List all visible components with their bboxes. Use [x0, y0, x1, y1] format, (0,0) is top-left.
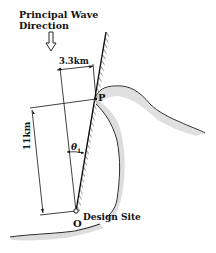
angle-subscript: 1 — [77, 147, 81, 154]
headland-shoreline — [94, 86, 205, 220]
point-o-marker — [74, 209, 78, 213]
title-line-1: Principal Wave — [19, 9, 98, 20]
point-o-label: O — [73, 218, 82, 229]
dimension-11km-label: 11km — [22, 122, 32, 150]
point-p-marker — [95, 98, 97, 100]
design-site-label: Design Site — [83, 212, 141, 222]
wave-direction-title: Principal Wave Direction — [19, 9, 98, 31]
southern-shoreline — [10, 224, 104, 240]
wave-direction-arrow-icon — [46, 32, 56, 51]
fetch-geometry-lines — [30, 64, 96, 215]
angle-theta-label: θ1 — [71, 142, 81, 154]
title-line-2: Direction — [19, 20, 98, 31]
dimension-3-3km-label: 3.3km — [59, 56, 89, 66]
point-p-label: P — [98, 92, 106, 103]
